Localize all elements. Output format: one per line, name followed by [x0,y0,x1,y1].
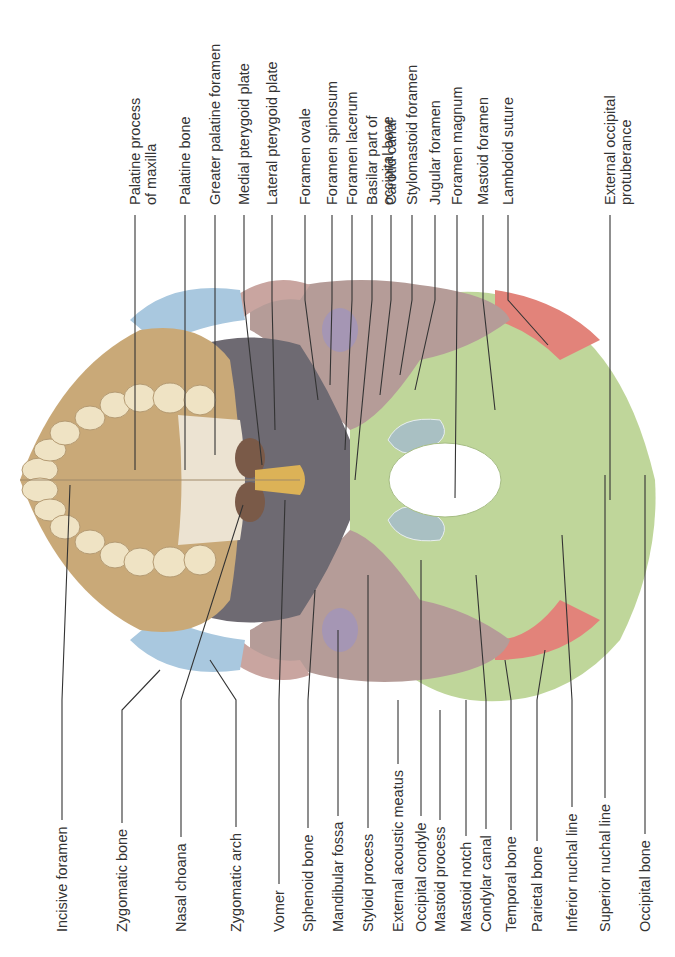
tooth [50,515,80,539]
label-occipital-bone: Occipital bone [637,840,653,932]
label-lambdoid-suture: Lambdoid suture [500,97,516,205]
label-mandibular-fossa: Mandibular fossa [330,822,346,932]
label-line: Carotid canal [383,120,399,205]
label-jugular-foramen: Jugular foramen [427,100,443,205]
label-line: Superior nuchal line [597,804,613,932]
skull-inferior-view-diagram: Palatine processof maxillaPalatine boneG… [0,0,675,957]
label-condylar-canal: Condylar canal [478,835,494,932]
label-zygomatic-bone: Zygomatic bone [114,829,130,932]
label-line: Styloid process [360,834,376,932]
label-line: Lambdoid suture [500,97,516,205]
label-line: Foramen lacerum [344,91,360,205]
label-palatine-bone: Palatine bone [177,116,193,205]
tooth [22,478,58,502]
label-foramen-ovale: Foramen ovale [297,108,313,205]
label-line: Mastoid process [432,826,448,932]
label-foramen-spinosum: Foramen spinosum [324,81,340,205]
label-line: Greater palatine foramen [207,44,223,205]
label-line: Inferior nuchal line [564,814,580,933]
label-line: Medial pterygoid plate [236,63,252,205]
tooth [124,384,156,412]
foramen-magnum-shape [389,443,501,517]
label-carotid-canal: Carotid canal [383,120,399,205]
label-nasal-choana: Nasal choana [173,843,189,932]
leader-line-zygomatic-bone [122,670,160,823]
label-line: Palatine bone [177,116,193,205]
leader-line-zygomatic-arch [210,660,236,827]
label-temporal-bone: Temporal bone [503,836,519,932]
label-incisive-foramen: Incisive foramen [54,826,70,932]
label-parietal-bone: Parietal bone [529,847,545,932]
label-medial-pterygoid-plate: Medial pterygoid plate [236,63,252,205]
tooth [184,385,216,415]
label-line: Vomer [271,890,287,932]
mandibular-fossa-bottom-shape [322,608,358,652]
label-line: Jugular foramen [427,100,443,205]
label-line: External acoustic meatus [390,770,406,932]
label-stylomastoid-foramen: Stylomastoid foramen [404,65,420,205]
label-mastoid-process: Mastoid process [432,826,448,932]
label-line: Mandibular fossa [330,822,346,932]
label-superior-nuchal-line: Superior nuchal line [597,804,613,932]
tooth [124,548,156,576]
label-mastoid-foramen: Mastoid foramen [475,97,491,205]
label-line: Sphenoid bone [300,834,316,932]
tooth [184,545,216,575]
label-external-occipital-protuberance: External occipitalprotuberance [602,95,634,205]
label-line: Zygomatic bone [114,829,130,932]
tooth [50,421,80,445]
label-line: protuberance [618,95,634,205]
label-line: Foramen magnum [449,87,465,205]
label-line: Basilar part of [364,116,380,205]
label-line: Occipital bone [637,840,653,932]
label-line: External occipital [602,95,618,205]
label-lateral-pterygoid-plate: Lateral pterygoid plate [264,62,280,206]
label-styloid-process: Styloid process [360,834,376,932]
label-line: Lateral pterygoid plate [264,62,280,206]
label-occipital-condyle: Occipital condyle [413,822,429,932]
label-sphenoid-bone: Sphenoid bone [300,834,316,932]
label-palatine-process-of-maxilla: Palatine processof maxilla [127,98,159,205]
label-line: Mastoid foramen [475,97,491,205]
label-foramen-lacerum: Foramen lacerum [344,91,360,205]
label-line: of maxilla [143,98,159,205]
label-greater-palatine-foramen: Greater palatine foramen [207,44,223,205]
label-line: Parietal bone [529,847,545,932]
label-line: Temporal bone [503,836,519,932]
label-line: Palatine process [127,98,143,205]
label-mastoid-notch: Mastoid notch [458,842,474,932]
label-line: Stylomastoid foramen [404,65,420,205]
label-line: Incisive foramen [54,826,70,932]
label-line: Condylar canal [478,835,494,932]
label-line: Zygomatic arch [228,833,244,932]
label-line: Foramen spinosum [324,81,340,205]
tooth [153,547,187,577]
label-line: Occipital condyle [413,822,429,932]
mandibular-fossa-top-shape [322,308,358,352]
label-line: Foramen ovale [297,108,313,205]
label-zygomatic-arch: Zygomatic arch [228,833,244,932]
label-vomer: Vomer [271,890,287,932]
label-line: Nasal choana [173,843,189,932]
label-inferior-nuchal-line: Inferior nuchal line [564,814,580,933]
label-external-acoustic-meatus: External acoustic meatus [390,770,406,932]
label-foramen-magnum: Foramen magnum [449,87,465,205]
tooth [153,383,187,413]
label-line: Mastoid notch [458,842,474,932]
